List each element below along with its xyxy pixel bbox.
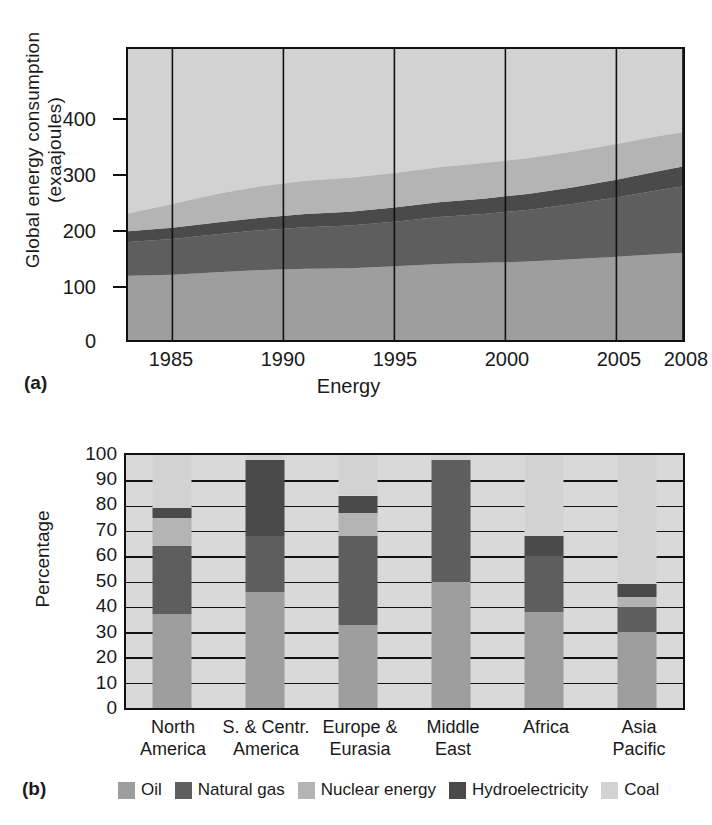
figure-a-ytick-0: 0 <box>6 330 96 353</box>
figure-b-segment-oil <box>617 632 656 708</box>
figure-b-xtick-line1: Asia <box>579 716 699 738</box>
figure-b-segment-natural-gas <box>153 546 192 614</box>
figure-b-segment-hydroelectricity <box>524 536 563 556</box>
figure-b-ytick-30: 30 <box>47 621 117 643</box>
figure-b-ytick-50: 50 <box>47 570 117 592</box>
figure-b-bar[interactable] <box>153 455 192 708</box>
legend-item-coal[interactable]: Coal <box>601 780 659 800</box>
figure-b-bar[interactable] <box>524 455 563 708</box>
figure-a-tickmark-300 <box>113 174 126 176</box>
figure-b-column-asia-pacific[interactable] <box>590 455 683 708</box>
figure-a-xtick-1990: 1990 <box>238 348 328 371</box>
figure-b-ytick-0: 0 <box>47 697 117 719</box>
figure-b-segment-coal <box>524 455 563 536</box>
legend-item-oil[interactable]: Oil <box>118 780 162 800</box>
figure-b-segment-hydroelectricity <box>617 584 656 597</box>
figure-a-panel-tag: (a) <box>24 372 47 394</box>
figure-b-segment-coal <box>617 455 656 584</box>
figure-b-bar[interactable] <box>246 455 285 708</box>
figure-b-segment-natural-gas <box>339 536 378 625</box>
figure-b-segment-oil <box>153 614 192 708</box>
figure-b-ytick-60: 60 <box>47 544 117 566</box>
figure-b-ytick-100: 100 <box>47 443 117 465</box>
figure-a-tickmark-400 <box>113 118 126 120</box>
legend-swatch-icon <box>298 782 315 799</box>
figure-b-segment-coal <box>246 455 285 460</box>
figure-a-x-axis-label: Energy <box>0 375 697 398</box>
figure-b-ytick-70: 70 <box>47 519 117 541</box>
figure-a-ytick-400: 400 <box>6 108 96 131</box>
figure-b-ytick-90: 90 <box>47 468 117 490</box>
figure-b-xtick-asia-pacific: Asia Pacific <box>579 716 699 760</box>
figure-b-column-s-centr-america[interactable] <box>219 455 312 708</box>
figure-b-column-europe-eurasia[interactable] <box>312 455 405 708</box>
figure-b-panel-tag: (b) <box>22 778 46 800</box>
figure-b-bar[interactable] <box>617 455 656 708</box>
legend: OilNatural gasNuclear energyHydroelectri… <box>118 780 688 800</box>
figure-a-ytick-300: 300 <box>6 164 96 187</box>
figure-b-segment-natural-gas <box>431 460 470 581</box>
legend-label: Hydroelectricity <box>472 780 588 800</box>
figure-a-plot-area <box>126 47 685 342</box>
figure-b-ytick-10: 10 <box>47 672 117 694</box>
figure-b-segment-natural-gas <box>246 536 285 592</box>
figure-a-stacked-area-chart: Global energy consumption (exaajoules) 4… <box>0 0 697 410</box>
figure-b-ytick-40: 40 <box>47 595 117 617</box>
figure-b-xtick-line2: East <box>393 738 513 760</box>
figure-b-segment-nuclear-energy <box>339 513 378 536</box>
legend-swatch-icon <box>449 782 466 799</box>
legend-item-hydroelectricity[interactable]: Hydroelectricity <box>449 780 588 800</box>
legend-item-nuclear-energy[interactable]: Nuclear energy <box>298 780 436 800</box>
figure-b-segment-hydroelectricity <box>246 460 285 536</box>
figure-a-tickmark-200 <box>113 230 126 232</box>
figure-a-xtick-1995: 1995 <box>350 348 440 371</box>
figure-b-segment-coal <box>153 455 192 508</box>
figure-b-segment-oil <box>524 612 563 708</box>
figure-b-segment-hydroelectricity <box>153 508 192 518</box>
figure-b-segment-natural-gas <box>524 556 563 612</box>
figure-b-ytick-80: 80 <box>47 493 117 515</box>
figure-b-segment-nuclear-energy <box>153 518 192 546</box>
figure-a-ytick-100: 100 <box>6 276 96 299</box>
figure-b-bar[interactable] <box>339 455 378 708</box>
legend-label: Oil <box>141 780 162 800</box>
legend-label: Nuclear energy <box>321 780 436 800</box>
figure-b-segment-hydroelectricity <box>339 496 378 514</box>
legend-item-natural-gas[interactable]: Natural gas <box>175 780 285 800</box>
figure-b-column-middle-east[interactable] <box>404 455 497 708</box>
figure-b-bar-columns <box>126 455 683 708</box>
figure-b-segment-natural-gas <box>617 607 656 632</box>
legend-label: Coal <box>624 780 659 800</box>
figure-a-area-svg <box>128 49 683 340</box>
figure-b-plot-area <box>124 453 685 710</box>
figure-b-stacked-bar-chart: Percentage 100 90 80 70 60 50 40 30 20 1… <box>0 410 697 825</box>
figure-a-xtick-2008: 2008 <box>641 348 712 371</box>
figure-b-segment-nuclear-energy <box>617 597 656 607</box>
figure-a-xtick-1985: 1985 <box>126 348 216 371</box>
legend-swatch-icon <box>175 782 192 799</box>
figure-b-segment-oil <box>431 582 470 709</box>
figure-b-segment-oil <box>339 625 378 708</box>
figure-b-ytick-20: 20 <box>47 646 117 668</box>
figure-b-xtick-line2: Pacific <box>579 738 699 760</box>
figure-b-segment-coal <box>339 455 378 495</box>
figure-b-segment-coal <box>431 455 470 460</box>
legend-swatch-icon <box>601 782 618 799</box>
figure-b-column-africa[interactable] <box>497 455 590 708</box>
figure-b-column-north-america[interactable] <box>126 455 219 708</box>
figure-a-tickmark-100 <box>113 286 126 288</box>
legend-swatch-icon <box>118 782 135 799</box>
legend-label: Natural gas <box>198 780 285 800</box>
figure-a-ytick-200: 200 <box>6 220 96 243</box>
figure-b-segment-oil <box>246 592 285 708</box>
figure-b-bar[interactable] <box>431 455 470 708</box>
figure-a-xtick-2000: 2000 <box>462 348 552 371</box>
